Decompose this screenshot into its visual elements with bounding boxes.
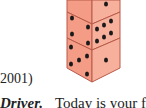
stacked-dice-illustration: [0, 0, 146, 108]
citation-fragment: 2001): [0, 71, 33, 87]
body-text: Today is your first: [55, 95, 146, 108]
body-text-line: Driver.Today is your first: [0, 95, 146, 108]
bold-term: Driver.: [0, 95, 43, 108]
